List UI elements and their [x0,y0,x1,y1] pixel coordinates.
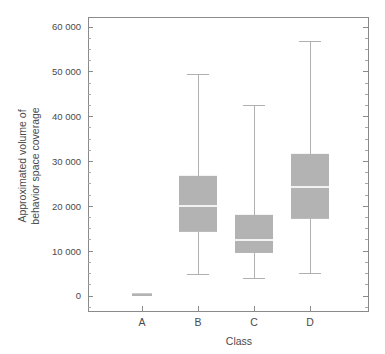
y-tick-label: 30 000 [52,156,81,167]
x-tick-label: A [138,316,145,328]
y-tick-label: 60 000 [52,21,81,32]
box-iqr [132,293,152,296]
x-axis-tick-labels: ABCD [138,316,314,328]
box-b [179,75,217,275]
boxplot-chart: 010 00020 00030 00040 00050 00060 000 AB… [0,0,385,354]
x-tick-label: B [194,316,201,328]
box-iqr [235,215,273,253]
plot-canvas: 010 00020 00030 00040 00050 00060 000 AB… [0,0,385,354]
box-iqr [179,176,217,232]
box-a [132,293,152,296]
y-axis-tick-labels: 010 00020 00030 00040 00050 00060 000 [52,21,81,301]
y-tick-label: 40 000 [52,111,81,122]
x-axis-ticks [142,306,310,311]
y-tick-label: 50 000 [52,66,81,77]
y-tick-label: 10 000 [52,246,81,257]
y-axis-title-line1: Approximated volume of [16,109,28,222]
box-series [132,42,329,296]
y-axis-title-line2: behavior space coverage [29,107,41,224]
x-axis-title: Class [226,335,252,347]
x-tick-label: C [250,316,258,328]
box-d [291,42,329,273]
y-tick-label: 0 [76,290,81,301]
box-c [235,105,273,279]
y-tick-label: 20 000 [52,201,81,212]
x-tick-label: D [306,316,314,328]
